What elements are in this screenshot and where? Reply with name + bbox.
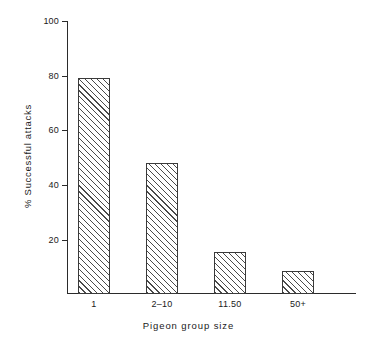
y-axis-tick (62, 76, 68, 77)
x-axis-title: Pigeon group size (0, 320, 377, 332)
y-axis-line (67, 21, 68, 294)
y-axis-tick (62, 185, 68, 186)
bar-chart-figure: 100 80 60 40 20 1 2–10 11.50 50+ Pigeon … (0, 0, 377, 348)
x-axis-tick-label: 2–10 (127, 299, 197, 310)
y-axis-tick (62, 21, 68, 22)
y-axis-tick (62, 240, 68, 241)
x-axis-tick-label: 1 (59, 299, 129, 310)
bar-category-3 (214, 252, 246, 294)
x-axis-tick-label: 50+ (263, 299, 333, 310)
x-axis-tick-label: 11.50 (195, 299, 265, 310)
bar-category-1 (78, 78, 110, 294)
y-axis-title: % Successful attacks (22, 66, 34, 246)
y-axis-tick-label: 100 (19, 17, 59, 26)
bar-category-4 (282, 271, 314, 294)
y-axis-tick (62, 130, 68, 131)
bar-category-2 (146, 163, 178, 294)
